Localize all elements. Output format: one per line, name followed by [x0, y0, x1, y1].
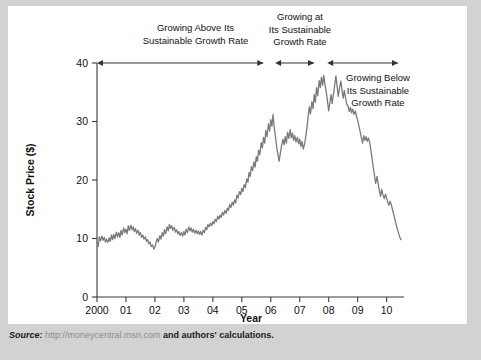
x-tick-label: 06	[265, 304, 277, 316]
x-tick-label: 03	[178, 304, 190, 316]
growth-regime-arrows	[97, 60, 398, 66]
figure-page: 010203040 200001020304050607080910 Stock…	[0, 0, 481, 360]
annotation-at-line1: Growing at	[240, 11, 360, 24]
annotation-growing-below: Growing Below Its Sustainable Growth Rat…	[318, 72, 438, 110]
y-tick-label: 20	[76, 174, 88, 186]
x-tick-label: 01	[120, 304, 132, 316]
regime-arrow-head-left	[97, 60, 103, 66]
source-note: Source: http://moneycentral.msn.com and …	[0, 330, 481, 340]
regime-arrow-head-left	[275, 60, 281, 66]
y-axis-title: Stock Price ($)	[24, 144, 36, 217]
y-tick-label: 30	[76, 115, 88, 127]
source-label: Source:	[9, 330, 43, 340]
annotation-below-line1: Growing Below	[318, 72, 438, 85]
annotation-growing-at: Growing at Its Sustainable Growth Rate	[240, 11, 360, 49]
x-tick-label: 04	[207, 304, 219, 316]
annotation-below-line2: Its Sustainable	[318, 85, 438, 98]
y-axis-ticks: 010203040	[76, 57, 97, 303]
x-tick-label: 02	[149, 304, 161, 316]
source-tail: and authors' calculations.	[161, 330, 274, 340]
y-tick-label: 0	[82, 291, 88, 303]
x-tick-label: 07	[294, 304, 306, 316]
annotation-at-line3: Growth Rate	[240, 36, 360, 49]
chart-panel: 010203040 200001020304050607080910 Stock…	[8, 6, 467, 324]
annotation-below-line3: Growth Rate	[318, 97, 438, 110]
regime-arrow-head-left	[327, 60, 333, 66]
x-tick-label: 2000	[85, 304, 109, 316]
x-tick-label: 09	[352, 304, 364, 316]
source-url: http://moneycentral.msn.com	[45, 330, 161, 340]
x-tick-label: 10	[381, 304, 393, 316]
y-tick-label: 10	[76, 232, 88, 244]
annotation-at-line2: Its Sustainable	[240, 24, 360, 37]
stock-price-line-chart: 010203040 200001020304050607080910 Stock…	[8, 6, 467, 324]
x-tick-label: 08	[323, 304, 335, 316]
y-tick-label: 40	[76, 57, 88, 69]
x-axis-title: Year	[240, 312, 262, 324]
